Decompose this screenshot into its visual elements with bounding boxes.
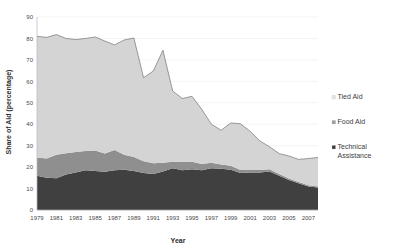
legend-item-label: Tied Aid (338, 93, 363, 100)
area-series-technical-assistance (37, 168, 318, 210)
y-tick-label: 10 (26, 186, 33, 192)
legend-item-label-continued: Assistance (338, 152, 372, 159)
x-tick-label: 2005 (282, 215, 296, 221)
chart-canvas: 0102030405060708090 19791981198319851987… (0, 0, 407, 249)
x-tick-label: 1987 (108, 215, 122, 221)
x-tick-label: 1985 (88, 215, 102, 221)
x-tick-label: 2007 (302, 215, 316, 221)
x-tick-label: 1979 (30, 215, 44, 221)
y-tick-label: 70 (26, 57, 33, 63)
y-axis-title: Share of Aid (percentage) (5, 70, 13, 155)
y-tick-label: 50 (26, 100, 33, 106)
y-tick-label: 60 (26, 79, 33, 85)
x-tick-label: 1983 (69, 215, 83, 221)
x-tick-label: 1989 (127, 215, 141, 221)
x-axis-title: Year (171, 237, 186, 244)
x-tick-label: 1981 (50, 215, 64, 221)
x-tick-labels: 1979198119831985198719891991199319951997… (30, 215, 315, 221)
y-tick-label: 30 (26, 143, 33, 149)
legend-item-label: Technical (338, 143, 368, 150)
y-tick-label: 40 (26, 121, 33, 127)
x-tick-label: 1995 (185, 215, 199, 221)
y-tick-label: 80 (26, 36, 33, 42)
x-tick-label: 1999 (224, 215, 238, 221)
stacked-area-chart: 0102030405060708090 19791981198319851987… (0, 0, 407, 249)
x-tick-label: 1993 (166, 215, 180, 221)
legend-swatch (332, 95, 336, 99)
legend-swatch (332, 145, 336, 149)
x-tick-label: 2001 (243, 215, 257, 221)
x-tick-label: 1997 (205, 215, 219, 221)
legend-item-label: Food Aid (338, 118, 366, 125)
y-tick-label: 90 (26, 14, 33, 20)
legend-swatch (332, 120, 336, 124)
y-tick-label: 20 (26, 164, 33, 170)
x-tick-label: 1991 (147, 215, 161, 221)
x-tick-label: 2003 (263, 215, 277, 221)
